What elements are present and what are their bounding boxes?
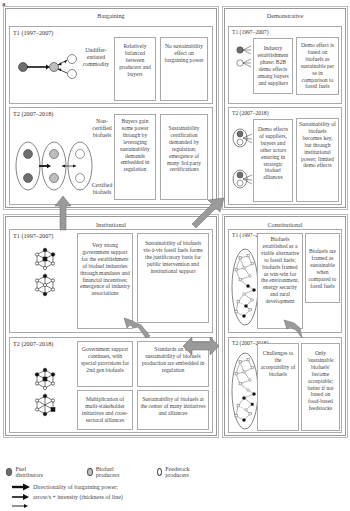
legend-arrow-label-1: Directionality of bargaining power: <box>33 484 118 490</box>
text-box: Government support continues, with speci… <box>77 341 133 387</box>
text-box: Multiplication of multi-stakeholder init… <box>77 390 133 430</box>
text-box: Demo effect is based on biofuels as sust… <box>296 37 339 95</box>
quadrant-title: Demonstrative <box>225 12 345 19</box>
legend-item-feedstock-producers: Feedstock producers <box>157 466 192 478</box>
period-t1: T1 (1997–2007) Biofuels established as a… <box>228 229 342 333</box>
text-box: Biofuels are framed as sustainable when … <box>305 233 340 303</box>
text-box: Only 'sustainable biofuels' become accep… <box>301 343 340 431</box>
network-hexagon-t2-icon <box>34 368 56 418</box>
period-t2: T2 (2007–2018) Non- certified biofuels C… <box>9 107 213 205</box>
period-t2: T2 (2007–2018) Challenges to the accepta… <box>228 337 342 433</box>
feedstock-producer-circle-icon <box>157 468 162 476</box>
medium-arrow-icon <box>12 493 30 501</box>
text-box: Relatively balanced between producers an… <box>114 37 156 101</box>
side-label-certified: Certified biofuels <box>88 182 116 196</box>
period-label: T2 (2007–2018) <box>13 110 53 117</box>
period-label: T1 (1997–2007) <box>13 232 53 239</box>
quadrant-title: Constitutional <box>225 221 345 228</box>
text-box: Sustainability of biofuels vis-à-vis fos… <box>137 233 209 323</box>
period-label: T1 (1997–2007) <box>13 29 53 36</box>
period-label: T2 (2007–2018) <box>232 110 269 116</box>
network-hexagon-icon <box>34 248 56 298</box>
text-box: Challenges to the acceptability of biofu… <box>257 343 299 431</box>
text-box: Sustainability of biofuels becomes key, … <box>296 118 339 202</box>
text-box: Industry establishment phase: B2B demo e… <box>253 38 293 94</box>
legend-label: Feedstock producers <box>165 466 192 478</box>
arrow-constitutional-to-institutional <box>124 318 152 340</box>
text-box: Very strong government support for the e… <box>77 233 133 329</box>
side-label-undifferentiated: Undiffer- entiated commodity <box>78 47 114 67</box>
legend-item-fuel-distributors: Fuel distributors <box>6 466 44 478</box>
quadrant-bargaining: Bargaining T1 (1997–2007) Undiffer- enti… <box>5 8 217 208</box>
quadrant-institutional: Institutional T1 (1997–2007) Very strong… <box>5 216 217 436</box>
legend-item-biofuel-producers: Biofuel producers <box>87 466 122 478</box>
period-t1: T1 (1997–2007) Very strong government su… <box>9 229 213 333</box>
thin-arrow-icon <box>12 502 30 510</box>
arrow-institutional-to-demonstrative <box>190 198 224 228</box>
quadrant-title: Bargaining <box>6 12 216 19</box>
text-box: Sustainability of biofuels at the center… <box>137 390 209 430</box>
period-t1: T1 (1997–2007) Industry establishment ph… <box>228 26 342 104</box>
constitutional-network-t1-icon <box>230 244 260 330</box>
biofuel-producer-circle-icon <box>87 468 93 476</box>
period-label: T2 (2007–2018) <box>13 340 53 347</box>
thick-arrow-icon <box>12 483 30 491</box>
arrow-constitutional-to-constitutional-t2 <box>284 320 304 342</box>
period-t1: T1 (1997–2007) Undiffer- entiated commod… <box>9 26 213 104</box>
legend-label: Fuel distributors <box>15 466 44 478</box>
quadrant-title: Institutional <box>6 221 216 228</box>
constitutional-network-t2-icon <box>230 348 260 434</box>
period-label: T1 (1997–2007) <box>232 29 269 35</box>
legend-label: Biofuel producers <box>96 466 122 478</box>
side-label-non-certified: Non- certified biofuels <box>88 118 116 138</box>
text-box: No sustainability effect on bargaining p… <box>160 37 208 101</box>
text-box: Buyers gain some power through by levera… <box>114 114 156 200</box>
period-t2: T2 (2007–2018) Demo effects of suppliers… <box>228 107 342 205</box>
quadrant-demonstrative: Demonstrative T1 (1997–2007) Industry es… <box>224 8 346 208</box>
text-box: Sustainability certification demanded by… <box>160 114 208 200</box>
text-box: Demo effects of suppliers, buyers and ot… <box>253 119 293 202</box>
fuel-distributor-circle-icon <box>6 468 12 476</box>
arrow-institutional-to-bargaining <box>55 196 71 230</box>
legend-arrow-label-2: arrow/s + intensity (thickness of line) <box>33 494 123 500</box>
actor-chain-icon <box>14 47 84 87</box>
text-box: Biofuels established as a viable alterna… <box>257 233 303 329</box>
figure-letter: a <box>2 0 6 8</box>
actor-clusters-icon <box>14 122 94 202</box>
arrow-bidirectional-institutional-constitutional <box>183 337 219 355</box>
